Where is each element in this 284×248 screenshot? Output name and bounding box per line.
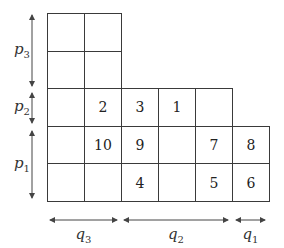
tableau-cell: 8 xyxy=(232,126,270,165)
tableau-cell: 2 xyxy=(84,88,122,127)
tableau-cell: 1 xyxy=(158,88,196,127)
tableau-cell xyxy=(195,88,233,127)
tableau-cell: 4 xyxy=(121,163,159,202)
tableau-cell xyxy=(47,126,85,165)
tableau-cell: 6 xyxy=(232,163,270,202)
q3-label: q3 xyxy=(76,227,92,245)
tableau-cell xyxy=(84,13,122,52)
p1-label: p1 xyxy=(14,156,30,174)
tableau-cell xyxy=(84,51,122,90)
p2-label: p2 xyxy=(14,99,30,117)
tableau-cell: 5 xyxy=(195,163,233,202)
tableau-cell xyxy=(47,88,85,127)
tableau-cell xyxy=(47,163,85,202)
tableau-cell xyxy=(158,163,196,202)
tableau-cell: 7 xyxy=(195,126,233,165)
p3-label: p3 xyxy=(14,42,30,60)
tableau-cell: 3 xyxy=(121,88,159,127)
q2-label: q2 xyxy=(168,227,184,245)
tableau-cell xyxy=(47,51,85,90)
young-diagram: 23110978456 p3p2p1q3q2q1 xyxy=(0,0,284,248)
tableau-cell xyxy=(158,126,196,165)
q1-label: q1 xyxy=(243,227,259,245)
tableau-cell xyxy=(47,13,85,52)
tableau-cell xyxy=(84,163,122,202)
tableau-cell: 10 xyxy=(84,126,122,165)
tableau-cell: 9 xyxy=(121,126,159,165)
